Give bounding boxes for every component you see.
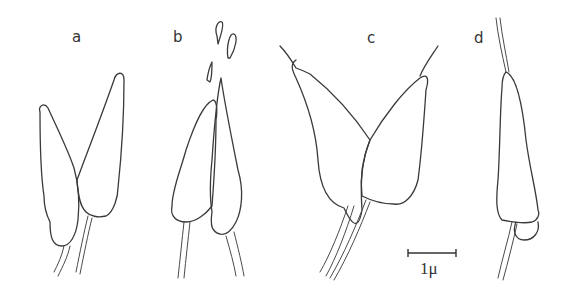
panel-c-drawing <box>280 46 438 280</box>
panel-label-d: d <box>474 31 484 46</box>
scale-bar <box>408 249 456 257</box>
panel-label-b: b <box>173 30 183 45</box>
panel-label-c: c <box>367 31 375 46</box>
panel-a-drawing <box>40 73 124 276</box>
micrograph-figure: a b c d 1μ <box>0 0 567 291</box>
panel-label-a: a <box>72 30 81 45</box>
panel-d-drawing <box>496 18 539 280</box>
scale-bar-label: 1μ <box>420 260 438 277</box>
panel-b-drawing <box>172 22 244 278</box>
